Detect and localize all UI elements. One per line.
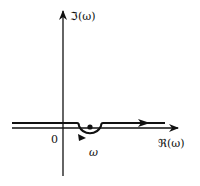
indentation-direction-arrow-icon (78, 134, 86, 141)
contour-diagram: ℑ(ω) ℜ(ω) 0 ω (0, 0, 200, 186)
origin-label: 0 (51, 133, 58, 146)
pole-label: ω (89, 146, 98, 159)
pole-dot (87, 124, 92, 129)
imaginary-axis-label: ℑ(ω) (70, 10, 96, 23)
real-axis-label: ℜ(ω) (158, 137, 185, 150)
